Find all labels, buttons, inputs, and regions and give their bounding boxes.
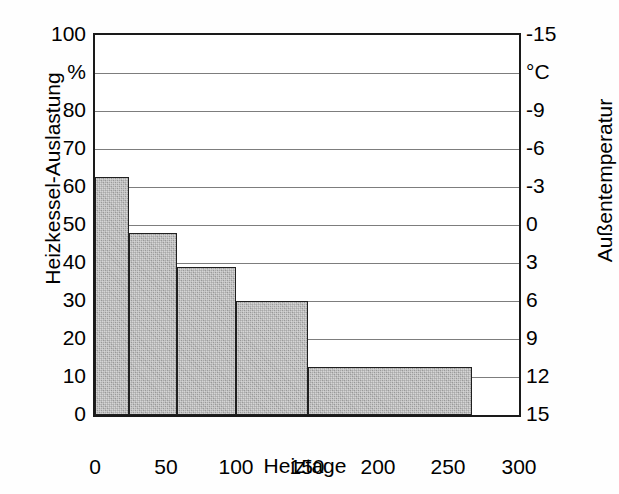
y-axis-left-tick: 0 [74, 403, 86, 424]
gridline [95, 187, 519, 188]
plot-area: 0 50 100 150 200 250 300 [93, 33, 521, 417]
y-axis-right-tick: 9 [526, 327, 538, 348]
y-axis-left-tick: % [67, 61, 86, 82]
chart-figure: 100 % 80 70 60 50 40 30 20 10 0 -15 °C -… [0, 0, 619, 494]
y-axis-right-tick: 15 [526, 403, 549, 424]
y-axis-right-tick: -6 [526, 137, 545, 158]
y-axis-right-tick: -9 [526, 99, 545, 120]
bar [95, 177, 129, 415]
bar [308, 367, 472, 415]
bar [177, 267, 236, 415]
x-axis-title: Heiztage [93, 455, 517, 476]
gridline [95, 225, 519, 226]
y-axis-left-tick: 40 [63, 251, 86, 272]
y-axis-right-tick: -3 [526, 175, 545, 196]
y-axis-left-title: Heizkessel-Auslastung [42, 19, 63, 339]
y-axis-left-tick: 50 [63, 213, 86, 234]
gridline [95, 111, 519, 112]
y-axis-right-title: Außentemperatur [594, 21, 615, 341]
y-axis-right-tick: °C [526, 61, 550, 82]
y-axis-right-tick: 3 [526, 251, 538, 272]
y-axis-left-tick: 30 [63, 289, 86, 310]
y-axis-right-tick: 0 [526, 213, 538, 234]
y-axis-left-tick: 60 [63, 175, 86, 196]
y-axis-right-tick: 12 [526, 365, 549, 386]
y-axis-left-tick: 80 [63, 99, 86, 120]
gridline [95, 149, 519, 150]
bar [236, 301, 308, 415]
gridline [95, 73, 519, 74]
y-axis-right-tick: -15 [526, 23, 556, 44]
y-axis-left-tick: 10 [63, 365, 86, 386]
bar [129, 233, 177, 415]
y-axis-right-tick: 6 [526, 289, 538, 310]
y-axis-left-tick: 20 [63, 327, 86, 348]
y-axis-right-ticks: -15 °C -9 -6 -3 0 3 6 9 12 15 [526, 0, 596, 494]
y-axis-left-tick: 70 [63, 137, 86, 158]
